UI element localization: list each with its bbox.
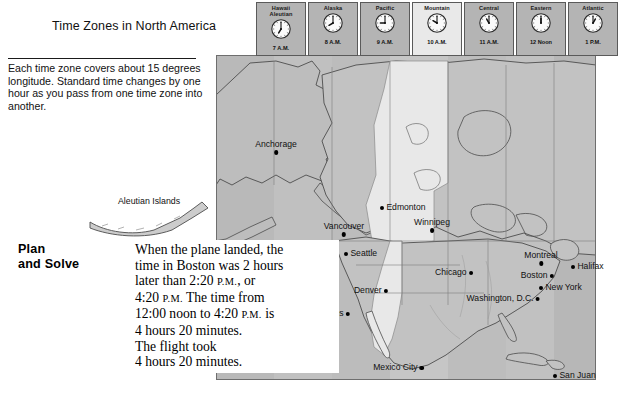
timezone-time: 7 A.M. [273,45,289,52]
city-marker-dot [430,228,434,232]
city-label-newyork: New York [539,283,582,292]
city-marker-dot [571,265,575,269]
solve-line-3: later than 2:20 P.M., or [135,273,335,290]
clock-icon [582,12,604,38]
clock-cell-alaska: Alaska 8 A.M. [308,2,358,56]
city-name: San Juan [559,370,595,380]
clock-icon [322,12,344,38]
city-marker-dot [344,252,348,256]
city-label-seattle: Seattle [344,249,377,258]
page-title: Time Zones in North America [52,19,216,33]
clock-icon [270,18,292,44]
city-name: Vancouver [324,221,364,231]
timezone-time: 10 A.M. [427,39,446,46]
city-marker-dot [539,261,543,265]
city-label-anchorage: Anchorage [255,140,297,155]
plan-and-solve-heading: Plan and Solve [18,242,79,272]
city-label-washingtondc: Washington, D.C. [467,294,540,303]
solve-line-2: time in Boston was 2 hours [135,258,335,274]
timezone-name: Alaska [324,5,343,11]
city-label-sanjuan: San Juan [553,371,596,380]
city-name: Denver [354,285,382,295]
city-marker-dot [274,150,278,154]
time-zone-clock-strip: Hawaii Aleutian 7 A.M.Alaska 8 A.M.Pacif… [256,2,620,56]
city-name: Halifax [577,261,603,271]
city-name: Anchorage [255,139,297,149]
note-divider [8,58,196,59]
city-marker-dot [342,232,346,236]
clock-icon [426,12,448,38]
city-marker-dot [469,271,473,275]
note-text: Each time zone covers about 15 degrees l… [8,62,208,112]
solve-line-5: 12:00 noon to 4:20 P.M. is [135,306,335,323]
clock-cell-hawaii-aleutian: Hawaii Aleutian 7 A.M. [256,2,306,56]
city-name: Chicago [435,267,467,277]
city-marker-dot [553,374,557,378]
city-label-montreal: Montreal [524,251,557,266]
city-marker-dot [380,206,384,210]
clock-cell-central: Central 11 A.M. [464,2,514,56]
city-marker-dot [346,312,350,316]
timezone-time: 12 Noon [530,39,552,46]
city-name: New York [545,282,581,292]
city-label-boston: Boston [521,271,554,280]
city-label-mexicocity: Mexico City [373,363,424,372]
clock-cell-mountain: Mountain 10 A.M. [412,2,462,56]
clock-icon [478,12,500,38]
solve-line-7: The flight took [135,339,335,355]
city-marker-dot [550,274,554,278]
city-name: Seattle [350,248,377,258]
city-name: Boston [521,270,548,280]
aleutian-islands-chain [88,200,220,242]
timezone-name: Central [479,5,499,11]
city-marker-dot [536,297,540,301]
city-label-denver: Denver [354,286,388,295]
plan-and-solve-body: When the plane landed, the time in Bosto… [133,240,339,373]
timezone-name: Eastern [530,5,551,11]
city-label-chicago: Chicago [435,268,473,277]
timezone-name: Hawaii Aleutian [270,5,293,17]
timezone-time: 9 A.M. [377,39,393,46]
clock-icon [530,12,552,38]
city-name: Montreal [524,250,557,260]
timezone-time: 11 A.M. [479,39,498,46]
city-label-halifax: Halifax [571,262,604,271]
city-marker-dot [539,286,543,290]
city-label-winnipeg: Winnipeg [414,218,450,233]
solve-line-8: 4 hours 20 minutes. [135,354,335,370]
clock-cell-atlantic: Atlantic 1 P.M. [568,2,618,56]
timezone-name: Atlantic [582,5,603,11]
solve-line-4: 4:20 P.M. The time from [135,290,335,307]
city-name: Mexico City [373,362,417,372]
city-marker-dot [420,366,424,370]
city-name: Winnipeg [414,217,450,227]
city-label-vancouver: Vancouver [324,222,364,237]
timezone-name: Mountain [424,5,450,11]
solve-line-6: 4 hours 20 minutes. [135,323,335,339]
solve-line-1: When the plane landed, the [135,242,335,258]
city-marker-dot [384,289,388,293]
city-label-edmonton: Edmonton [380,203,426,212]
timezone-time: 1 P.M. [585,39,600,46]
city-name: Edmonton [386,202,425,212]
clock-icon [374,12,396,38]
clock-cell-eastern: Eastern 12 Noon [516,2,566,56]
city-name: Washington, D.C. [467,293,534,303]
time-zone-note: Each time zone covers about 15 degrees l… [8,58,208,112]
timezone-name: Pacific [376,5,395,11]
timezone-time: 8 A.M. [325,39,341,46]
clock-cell-pacific: Pacific 9 A.M. [360,2,410,56]
